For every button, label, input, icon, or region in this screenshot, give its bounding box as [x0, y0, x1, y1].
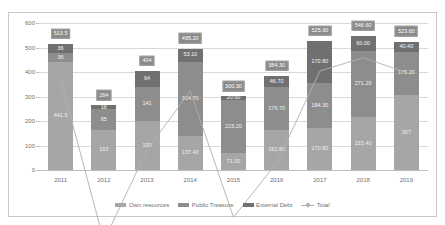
bar-segment[interactable]: 40.40 [394, 42, 419, 52]
total-data-label: 404 [139, 55, 154, 66]
bar-segment[interactable]: 184.30 [307, 83, 332, 128]
bar-segment-label: 40.40 [399, 44, 413, 50]
stacked-bar[interactable]: 307176.2040.40 [394, 42, 419, 170]
bar-segment-label: 215.40 [355, 141, 372, 147]
stacked-bar[interactable]: 162.80176.7046.70 [264, 76, 289, 170]
bar-segment[interactable]: 170.80 [307, 41, 332, 83]
total-data-label: 300.30 [222, 81, 245, 92]
bar-segment-label: 215.20 [225, 124, 242, 130]
bar-category: 19914164 [125, 23, 168, 170]
legend-item[interactable]: Own resources [115, 202, 169, 208]
y-axis-tick-mark [36, 170, 39, 171]
bar-segment-label: 64 [144, 76, 150, 82]
stacked-bar[interactable]: 71.00215.2020.50 [221, 96, 246, 170]
bar-segment[interactable]: 36 [48, 53, 73, 62]
bar-segment-label: 141 [142, 101, 151, 107]
x-axis-tick-label: 2015 [212, 174, 255, 186]
legend-label: External Debt [256, 202, 292, 208]
y-axis-tick-label: 300 [25, 94, 35, 100]
bar-segment[interactable]: 53.10 [178, 49, 203, 62]
bar-segment[interactable]: 176.20 [394, 52, 419, 95]
total-data-label: 546.60 [352, 21, 375, 32]
total-data-label: 264 [96, 90, 111, 101]
stacked-bar[interactable]: 441.53636 [48, 44, 73, 170]
y-axis-tick-label: 400 [25, 69, 35, 75]
bar-segment[interactable]: 441.5 [48, 62, 73, 170]
bar-category: 170.80184.30170.80 [298, 23, 341, 170]
y-axis-tick-label: 200 [25, 118, 35, 124]
bar-category: 215.40271.2060.00 [342, 23, 385, 170]
bar-segment[interactable]: 137.40 [178, 136, 203, 170]
y-axis-tick-label: 600 [25, 20, 35, 26]
stacked-bar[interactable]: 170.80184.30170.80 [307, 41, 332, 170]
bar-segment-label: 46.70 [270, 79, 284, 85]
bar-segment[interactable]: 271.20 [351, 51, 376, 117]
gridline [39, 170, 428, 171]
bar-segment-label: 304.70 [182, 96, 199, 102]
bar-segment-label: 60.00 [356, 41, 370, 47]
stacked-bar[interactable]: 1638516 [91, 105, 116, 170]
total-data-label: 513.5 [51, 29, 71, 40]
legend-swatch [243, 203, 254, 207]
x-axis-tick-label: 2017 [298, 174, 341, 186]
chart-plot-frame: 0100200300400500600 441.5363616385161991… [8, 12, 437, 217]
bar-segment-label: 16 [101, 105, 107, 109]
bar-segment[interactable]: 215.40 [351, 117, 376, 170]
x-axis-tick-label: 2016 [255, 174, 298, 186]
legend-item[interactable]: Public Treasure [178, 202, 233, 208]
bar-segment-label: 36 [58, 55, 64, 61]
bar-segment[interactable]: 20.50 [221, 96, 246, 99]
bar-segment[interactable]: 71.00 [221, 153, 246, 170]
bar-segment[interactable]: 170.80 [307, 128, 332, 170]
total-data-label: 495.20 [179, 33, 202, 44]
x-axis-tick-label: 2013 [125, 174, 168, 186]
plot-area: 0100200300400500600 441.5363616385161991… [39, 23, 428, 170]
bar-segment-label: 85 [101, 117, 107, 123]
bar-segment[interactable]: 215.20 [221, 100, 246, 153]
bar-category: 441.53636 [39, 23, 82, 170]
y-axis-tick-label: 500 [25, 45, 35, 51]
x-axis-tick-label: 2018 [342, 174, 385, 186]
bar-segment-label: 36 [58, 46, 64, 52]
bar-segment-label: 20.50 [227, 96, 241, 99]
bar-category: 137.40304.7053.10 [169, 23, 212, 170]
legend-label: Public Treasure [192, 202, 234, 208]
bar-segment-label: 307 [402, 130, 411, 136]
total-data-label: 523.60 [395, 26, 418, 37]
bar-segment[interactable]: 60.00 [351, 36, 376, 51]
legend-label: Total [317, 202, 330, 208]
bar-segment-label: 176.20 [398, 70, 415, 76]
total-data-label: 525.90 [309, 26, 332, 37]
chart-container: 0100200300400500600 441.5363616385161991… [0, 0, 445, 225]
bar-segment[interactable]: 85 [91, 109, 116, 130]
bar-segment[interactable]: 46.70 [264, 76, 289, 87]
legend-item[interactable]: External Debt [243, 202, 293, 208]
bar-segment[interactable]: 16 [91, 105, 116, 109]
legend-item-total[interactable]: Total [301, 202, 329, 208]
bar-segment-label: 271.20 [355, 81, 372, 87]
bar-segment[interactable]: 304.70 [178, 62, 203, 137]
bar-segment[interactable]: 64 [135, 71, 160, 87]
bar-segment-label: 71.00 [227, 159, 241, 165]
bar-segment-label: 163 [99, 147, 108, 153]
stacked-bar[interactable]: 19914164 [135, 71, 160, 170]
total-data-label: 384.30 [265, 60, 288, 71]
bar-segment[interactable]: 176.70 [264, 87, 289, 130]
y-axis-tick-label: 0 [32, 167, 35, 173]
bar-segment[interactable]: 307 [394, 95, 419, 170]
stacked-bar[interactable]: 137.40304.7053.10 [178, 49, 203, 170]
bar-segment[interactable]: 141 [135, 87, 160, 122]
bar-segment-label: 199 [142, 143, 151, 149]
x-axis-tick-label: 2014 [169, 174, 212, 186]
stacked-bar[interactable]: 215.40271.2060.00 [351, 36, 376, 170]
bar-segment[interactable]: 163 [91, 130, 116, 170]
y-axis-tick-label: 100 [25, 143, 35, 149]
chart-legend: Own resourcesPublic TreasureExternal Deb… [9, 202, 436, 208]
bar-segment[interactable]: 36 [48, 44, 73, 53]
x-axis-tick-label: 2019 [385, 174, 428, 186]
bar-segment-label: 176.70 [268, 106, 285, 112]
bar-category: 307176.2040.40 [385, 23, 428, 170]
bar-segment-label: 53.10 [183, 52, 197, 58]
bar-segment[interactable]: 199 [135, 121, 160, 170]
bar-segment[interactable]: 162.80 [264, 130, 289, 170]
